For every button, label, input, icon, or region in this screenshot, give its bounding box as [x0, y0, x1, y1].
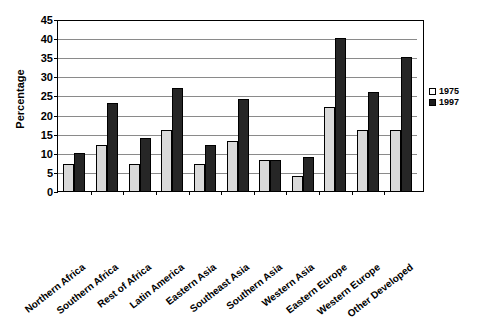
x-axis-tick-mark: [156, 191, 157, 195]
legend-label: 1997: [439, 97, 459, 108]
bar-group: [91, 20, 124, 191]
bar: [74, 153, 85, 191]
y-axis-title-text: Percentage: [14, 34, 26, 164]
y-axis-tick-label: 25: [31, 91, 53, 101]
legend-item: 1975: [429, 86, 477, 97]
bar: [63, 164, 74, 191]
bar: [259, 160, 270, 191]
bar-group: [286, 20, 319, 191]
bar: [129, 164, 140, 191]
x-axis-tick-mark: [254, 191, 255, 195]
bar-group: [384, 20, 417, 191]
y-axis-tick-label: 30: [31, 72, 53, 82]
y-axis-tick-label: 35: [31, 53, 53, 63]
plot-area: [57, 20, 417, 192]
x-axis-tick-mark: [352, 191, 353, 195]
y-axis-tick-label: 5: [31, 168, 53, 178]
y-axis-tick-label: 20: [31, 111, 53, 121]
bar: [238, 99, 249, 191]
y-axis-tick-label: 10: [31, 149, 53, 159]
bar-group: [58, 20, 91, 191]
bar: [161, 130, 172, 191]
bar-group: [156, 20, 189, 191]
bar: [368, 92, 379, 191]
y-axis-tick-labels: 051015202530354045: [27, 20, 53, 192]
bar-group: [123, 20, 156, 191]
y-axis-tick-mark: [54, 192, 58, 193]
legend: 19751997: [429, 86, 477, 108]
x-axis-tick-mark: [91, 191, 92, 195]
x-axis-tick-mark: [123, 191, 124, 195]
bar: [390, 130, 401, 191]
bar: [335, 38, 346, 191]
bar: [96, 145, 107, 191]
legend-swatch-icon: [429, 88, 436, 95]
bar-group: [352, 20, 385, 191]
bar-groups: [58, 20, 417, 191]
bar: [270, 160, 281, 191]
y-axis-tick-label: 45: [31, 15, 53, 25]
legend-label: 1975: [439, 86, 459, 97]
y-axis-tick-label: 15: [31, 130, 53, 140]
bar-group: [254, 20, 287, 191]
bar-group: [319, 20, 352, 191]
x-axis-tick-mark: [286, 191, 287, 195]
bar-group: [221, 20, 254, 191]
bar: [303, 157, 314, 191]
bar-group: [189, 20, 222, 191]
y-axis-tick-label: 0: [31, 187, 53, 197]
legend-swatch-icon: [429, 99, 436, 106]
bar: [140, 138, 151, 192]
x-axis-tick-mark: [189, 191, 190, 195]
bar: [172, 88, 183, 191]
y-axis-tick-label: 40: [31, 34, 53, 44]
bar: [205, 145, 216, 191]
x-axis-tick-mark: [221, 191, 222, 195]
x-axis-category-labels: Northern AfricaSouthern AfricaRest of Af…: [57, 196, 417, 274]
bar: [227, 141, 238, 191]
bar: [107, 103, 118, 191]
bar: [194, 164, 205, 191]
bar: [324, 107, 335, 191]
x-axis-tick-mark: [319, 191, 320, 195]
bar: [357, 130, 368, 191]
x-axis-tick-mark: [384, 191, 385, 195]
bar: [401, 57, 412, 191]
bar: [292, 176, 303, 191]
legend-item: 1997: [429, 97, 477, 108]
